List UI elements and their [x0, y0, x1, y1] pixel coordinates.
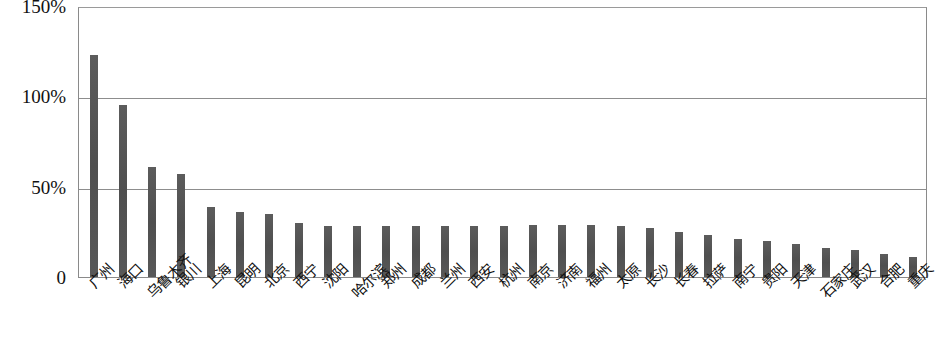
- bar: [236, 212, 244, 277]
- bar: [148, 167, 156, 277]
- bars-layer: [79, 8, 926, 277]
- bar: [90, 55, 98, 277]
- bar: [822, 248, 830, 277]
- plot-area: [78, 7, 927, 278]
- y-tick-label: 0: [57, 267, 67, 289]
- y-axis: 150%100%50%0: [0, 0, 72, 285]
- bar: [207, 207, 215, 277]
- bar: [119, 105, 127, 277]
- y-tick-label: 100%: [22, 86, 66, 108]
- y-tick-label: 50%: [31, 177, 66, 199]
- bar: [353, 226, 361, 277]
- y-tick-label: 150%: [22, 0, 66, 18]
- x-axis: 广州海口乌鲁木齐银川上海昆明北京西宁沈阳哈尔滨郑州成都兰州西安杭州南京济南福州太…: [78, 279, 927, 345]
